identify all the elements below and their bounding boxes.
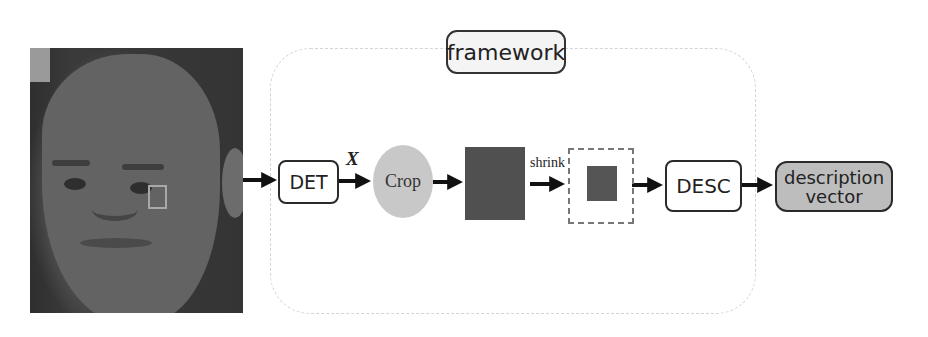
edge-label-shrink: shrink bbox=[530, 155, 565, 171]
output-label-line2: vector bbox=[805, 187, 862, 206]
description-vector-node: description vector bbox=[775, 161, 893, 212]
det-node: DET bbox=[278, 160, 339, 204]
cropped-patch-node bbox=[465, 147, 525, 220]
edge-label-x: X bbox=[346, 148, 359, 170]
output-label-line1: description bbox=[784, 168, 884, 187]
shrunk-patch-node bbox=[587, 166, 617, 201]
crop-node: Crop bbox=[373, 145, 433, 218]
desc-node: DESC bbox=[665, 160, 742, 212]
